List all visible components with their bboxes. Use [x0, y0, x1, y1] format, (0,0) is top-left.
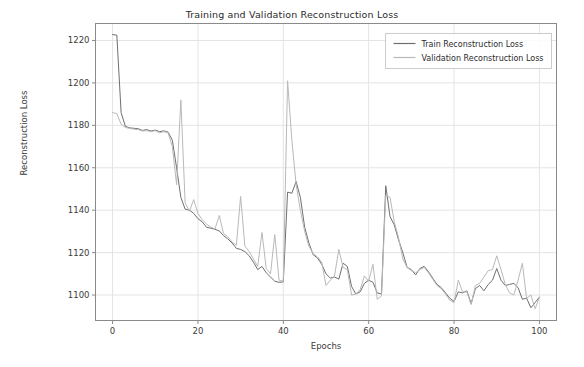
- train-loss-line: [113, 35, 540, 308]
- y-axis-ticks: 1100112011401160118012001220: [68, 35, 96, 300]
- x-tick-label: 20: [193, 326, 204, 336]
- chart-legend: Train Reconstruction LossValidation Reco…: [386, 34, 552, 69]
- y-tick-label: 1140: [68, 205, 90, 215]
- y-tick-label: 1180: [68, 120, 90, 130]
- x-tick-label: 80: [449, 326, 460, 336]
- x-tick-label: 40: [278, 326, 289, 336]
- y-tick-label: 1200: [68, 78, 90, 88]
- y-tick-label: 1220: [68, 35, 90, 45]
- y-tick-label: 1120: [68, 248, 90, 258]
- legend-label: Train Reconstruction Loss: [421, 40, 524, 49]
- legend-label: Validation Reconstruction Loss: [422, 54, 544, 63]
- validation-loss-line: [113, 81, 540, 309]
- y-tick-label: 1160: [68, 163, 90, 173]
- x-axis-ticks: 020406080100: [110, 321, 548, 336]
- x-axis-label: Epochs: [95, 341, 557, 351]
- x-tick-label: 60: [363, 326, 374, 336]
- y-tick-label: 1100: [68, 290, 90, 300]
- chart-figure: Training and Validation Reconstruction L…: [0, 0, 584, 367]
- x-tick-label: 0: [110, 326, 115, 336]
- y-axis-label: Reconstruction Loss: [19, 53, 29, 213]
- x-tick-label: 100: [531, 326, 547, 336]
- series-lines: [113, 35, 540, 309]
- plot-area: 1100112011401160118012001220 02040608010…: [0, 0, 584, 367]
